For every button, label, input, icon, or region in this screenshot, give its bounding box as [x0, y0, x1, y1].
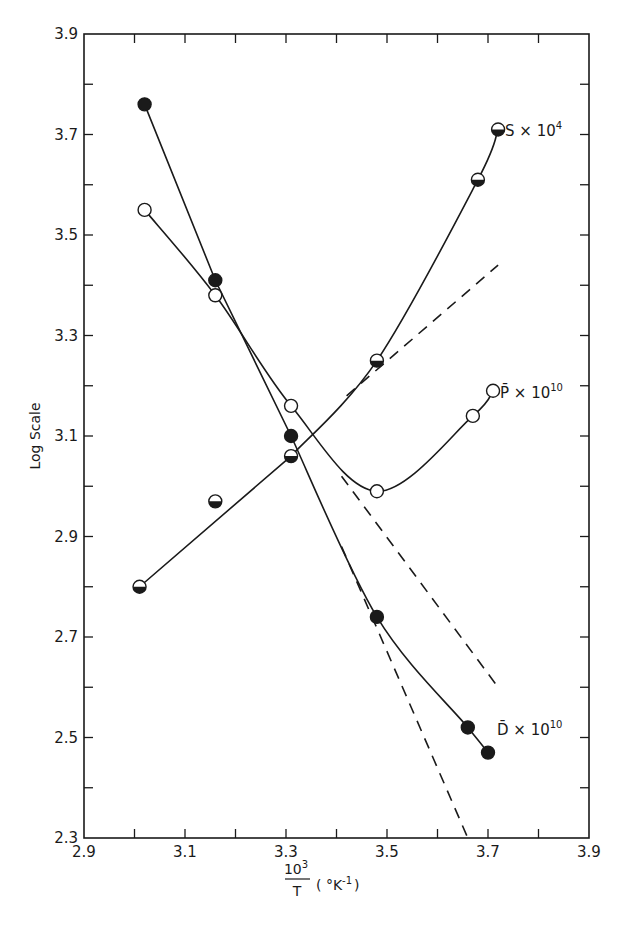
open-circle-marker: [487, 384, 500, 397]
filled-circle-marker: [209, 274, 222, 287]
half-filled-circle-marker: [285, 450, 298, 463]
y-tick-label: 2.3: [54, 829, 78, 847]
axis-ticks: [84, 34, 589, 838]
filled-circle-marker: [285, 430, 298, 443]
y-tick-label: 2.7: [54, 628, 78, 646]
y-tick-label: 3.1: [54, 427, 78, 445]
half-filled-circle-marker: [471, 173, 484, 186]
open-circle-marker: [370, 485, 383, 498]
curve-s: [140, 129, 499, 586]
half-filled-circle-marker: [492, 123, 505, 136]
plot-frame: [84, 34, 589, 838]
series-label-s: S × 104: [505, 120, 562, 140]
y-axis-title: Log Scale: [27, 402, 43, 469]
curve-p: [145, 210, 493, 491]
x-tick-label: 3.1: [173, 843, 197, 861]
extrapolation-lines: [342, 265, 499, 838]
series-labels: S × 104P̄ × 1010D̄ × 1010: [497, 120, 563, 739]
series-curves: [140, 104, 499, 752]
x-tick-label: 3.5: [375, 843, 399, 861]
curve-d: [145, 104, 488, 752]
x-tick-label: 3.7: [476, 843, 500, 861]
y-tick-label: 2.9: [54, 528, 78, 546]
half-filled-circle-marker: [133, 580, 146, 593]
x-axis-title-units: ( °K-1): [316, 875, 360, 893]
x-tick-label: 3.3: [274, 843, 298, 861]
filled-circle-marker: [138, 98, 151, 111]
x-axis-title: 103 T ( °K-1): [284, 859, 360, 899]
series-label-d: D̄ × 1010: [497, 719, 562, 739]
open-circle-marker: [138, 203, 151, 216]
y-tick-label: 3.3: [54, 327, 78, 345]
x-axis-title-numerator: 103: [284, 859, 308, 877]
dashed-extrapolation-d: [342, 547, 468, 838]
open-circle-marker: [209, 289, 222, 302]
series-label-p: P̄ × 1010: [500, 382, 563, 402]
filled-circle-marker: [482, 746, 495, 759]
filled-circle-marker: [461, 721, 474, 734]
plot-border: [84, 34, 589, 838]
y-tick-label: 2.5: [54, 729, 78, 747]
open-circle-marker: [285, 399, 298, 412]
x-axis-title-denominator: T: [292, 883, 302, 899]
open-circle-marker: [466, 409, 479, 422]
y-tick-label: 3.5: [54, 226, 78, 244]
arrhenius-chart: 2.93.13.33.53.73.92.32.52.72.93.13.33.53…: [0, 0, 621, 925]
half-filled-circle-marker: [209, 495, 222, 508]
filled-circle-marker: [370, 610, 383, 623]
y-tick-label: 3.9: [54, 25, 78, 43]
x-tick-label: 3.9: [577, 843, 601, 861]
half-filled-circle-marker: [370, 354, 383, 367]
dashed-extrapolation-p: [342, 476, 499, 687]
y-tick-label: 3.7: [54, 126, 78, 144]
